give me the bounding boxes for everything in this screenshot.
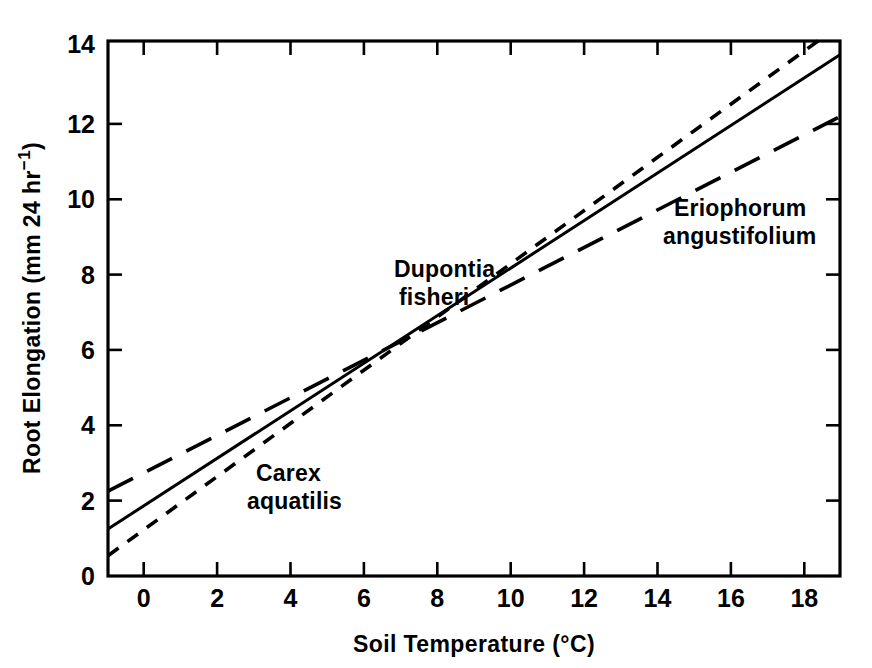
x-tick-label: 10	[497, 584, 525, 612]
y-tick-label: 14	[67, 30, 95, 58]
svg-text:Root Elongation (mm 24 hr−1): Root Elongation (mm 24 hr−1)	[15, 142, 45, 474]
x-tick-label: 16	[717, 584, 745, 612]
x-tick-labels: 0 2 4 6 8 10 12 14 16 18	[137, 584, 819, 612]
y-axis-ticks-right	[826, 124, 840, 501]
y-axis-title-close: )	[19, 142, 45, 150]
x-tick-label: 14	[644, 584, 672, 612]
x-tick-label: 18	[790, 584, 818, 612]
series-label-line1: Carex	[256, 460, 321, 486]
x-tick-label: 6	[357, 584, 371, 612]
chart-figure: 0 2 4 6 8 10 12 14 16 18 0 2 4 6 8 10 12…	[0, 0, 872, 668]
y-tick-label: 2	[81, 487, 95, 515]
series-label-eriophorum-angustifolium: Eriophorum angustifolium	[663, 195, 816, 249]
x-tick-label: 8	[430, 584, 444, 612]
x-axis-ticks-top	[144, 41, 805, 55]
y-tick-label: 0	[81, 562, 95, 590]
y-tick-label: 8	[81, 261, 95, 289]
x-tick-label: 0	[137, 584, 151, 612]
series-label-line1: Eriophorum	[674, 195, 806, 221]
x-tick-label: 2	[210, 584, 224, 612]
y-tick-label: 12	[67, 110, 95, 138]
y-axis-title-text: Root Elongation (mm 24 hr	[19, 170, 45, 474]
y-tick-label: 4	[81, 411, 95, 439]
y-axis-title-exponent: −1	[15, 150, 34, 170]
series-label-line2: aquatilis	[247, 488, 342, 514]
x-tick-label: 4	[284, 584, 298, 612]
y-axis-ticks	[108, 124, 122, 501]
y-tick-label: 6	[81, 336, 95, 364]
x-tick-label: 12	[570, 584, 598, 612]
y-axis-title: Root Elongation (mm 24 hr−1)	[15, 142, 45, 474]
series-line-dupontia-fisheri	[108, 55, 840, 529]
x-axis-title: Soil Temperature (°C)	[353, 631, 595, 657]
series-label-line2: fisheri	[399, 284, 469, 310]
series-label-line2: angustifolium	[663, 223, 816, 249]
x-axis-ticks	[144, 562, 805, 576]
y-tick-labels: 0 2 4 6 8 10 12 14	[67, 30, 95, 590]
series-label-line1: Dupontia	[394, 256, 495, 282]
plot-frame	[108, 41, 840, 576]
series-line-eriophorum-angustifolium	[108, 117, 840, 492]
series-label-carex-aquatilis: Carex aquatilis	[247, 460, 342, 514]
chart-plot-area: 0 2 4 6 8 10 12 14 16 18 0 2 4 6 8 10 12…	[0, 0, 872, 668]
y-tick-label: 10	[67, 185, 95, 213]
